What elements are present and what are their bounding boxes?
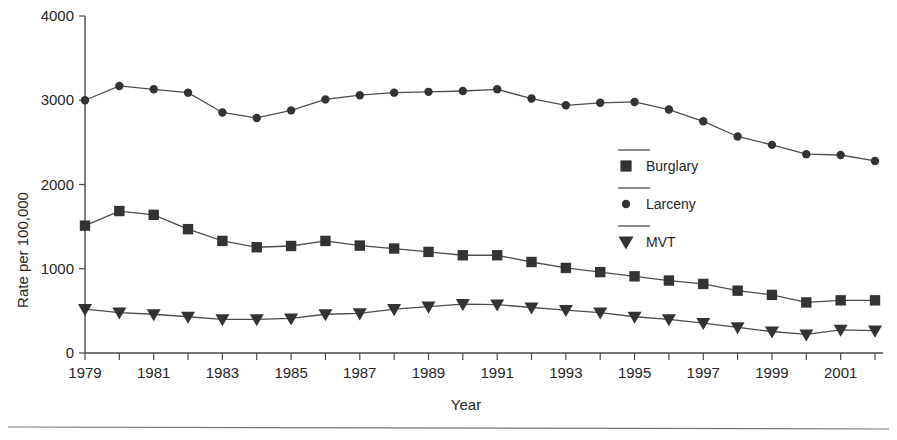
data-point <box>664 275 674 285</box>
data-point <box>218 108 226 116</box>
data-point <box>183 224 193 234</box>
data-point <box>870 295 880 305</box>
legend-label: Burglary <box>646 158 698 174</box>
data-point <box>733 132 741 140</box>
data-point <box>629 271 639 281</box>
data-point <box>287 106 295 114</box>
data-point <box>492 250 502 260</box>
data-point <box>561 263 571 273</box>
crime-rate-line-chart: 01000200030004000 1979198119831985198719… <box>0 0 897 440</box>
x-tick-label: 1989 <box>412 364 445 381</box>
x-tick-label: 1979 <box>68 364 101 381</box>
data-point <box>801 297 811 307</box>
x-tick-label: 1987 <box>343 364 376 381</box>
data-point <box>81 96 89 104</box>
data-point <box>699 117 707 125</box>
x-tick-label: 1993 <box>549 364 582 381</box>
y-tick-label: 0 <box>66 344 74 361</box>
data-point <box>802 150 810 158</box>
data-point <box>665 105 673 113</box>
x-tick-label: 1985 <box>274 364 307 381</box>
legend-label: MVT <box>646 234 676 250</box>
data-point <box>390 88 398 96</box>
data-point <box>835 295 845 305</box>
data-point <box>423 247 433 257</box>
data-point <box>527 94 535 102</box>
x-tick-label: 1995 <box>618 364 651 381</box>
data-point <box>493 85 501 93</box>
data-point <box>526 257 536 267</box>
data-point <box>320 236 330 246</box>
data-point <box>562 101 570 109</box>
data-point <box>596 99 604 107</box>
x-tick-label: 1991 <box>480 364 513 381</box>
y-tick-label: 4000 <box>41 7 74 24</box>
legend-marker-circle <box>622 200 630 208</box>
data-point <box>80 220 90 230</box>
data-point <box>424 88 432 96</box>
data-point <box>768 141 776 149</box>
data-point <box>253 114 261 122</box>
data-point <box>184 88 192 96</box>
data-point <box>115 82 123 90</box>
data-point <box>389 243 399 253</box>
data-point <box>836 151 844 159</box>
data-point <box>458 250 468 260</box>
data-point <box>732 285 742 295</box>
legend-label: Larceny <box>646 196 696 212</box>
data-point <box>630 98 638 106</box>
data-point <box>286 241 296 251</box>
data-point <box>217 236 227 246</box>
data-point <box>459 87 467 95</box>
data-point <box>595 267 605 277</box>
y-tick-label: 3000 <box>41 91 74 108</box>
data-point <box>149 85 157 93</box>
data-point <box>871 157 879 165</box>
data-point <box>321 95 329 103</box>
chart-svg: 01000200030004000 1979198119831985198719… <box>0 0 897 440</box>
x-tick-label: 1999 <box>755 364 788 381</box>
data-point <box>252 242 262 252</box>
x-tick-label: 1983 <box>206 364 239 381</box>
x-tick-label: 1997 <box>687 364 720 381</box>
data-point <box>356 91 364 99</box>
data-point <box>148 210 158 220</box>
y-tick-label: 2000 <box>41 176 74 193</box>
y-tick-label: 1000 <box>41 260 74 277</box>
data-point <box>114 206 124 216</box>
x-tick-label: 1981 <box>137 364 170 381</box>
legend-marker-square <box>620 160 631 171</box>
y-axis-title: Rate per 100,000 <box>14 192 31 308</box>
x-tick-label: 2001 <box>824 364 857 381</box>
data-point <box>355 240 365 250</box>
data-point <box>698 279 708 289</box>
x-axis-title: Year <box>451 396 481 413</box>
data-point <box>767 290 777 300</box>
